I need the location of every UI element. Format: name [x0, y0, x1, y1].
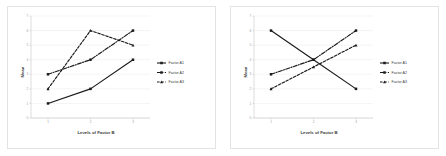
left-x-axis-title: Levels of Factor B [77, 130, 114, 135]
series-line-2 [48, 31, 133, 75]
data-point-marker [270, 29, 273, 32]
data-point-marker [270, 73, 273, 76]
left-series-group [47, 29, 135, 105]
y-tick-label: 5 [26, 43, 28, 47]
left-y-axis-title: Mean [20, 66, 25, 77]
left-xtick-labels: 123 [47, 120, 134, 124]
figure-root: 01234567 123 Factor A1Factor A2Factor A3… [0, 0, 446, 156]
data-point-marker [89, 88, 92, 91]
right-chart: 01234567 123 Factor A1Factor A2Factor A3… [223, 0, 446, 156]
x-tick-label: 1 [270, 120, 272, 124]
data-point-marker [89, 58, 92, 61]
y-tick-label: 1 [26, 102, 28, 106]
x-tick-label: 3 [132, 120, 134, 124]
y-tick-label: 2 [249, 87, 251, 91]
right-ytick-labels: 01234567 [249, 14, 251, 120]
right-chart-svg: 01234567 123 Factor A1Factor A2Factor A3… [223, 0, 446, 156]
series-line-1 [48, 60, 133, 104]
left-chart-svg: 01234567 123 Factor A1Factor A2Factor A3… [0, 0, 223, 156]
y-tick-label: 6 [249, 29, 251, 33]
y-tick-label: 2 [26, 87, 28, 91]
y-tick-label: 3 [26, 72, 28, 76]
legend-label-2: Factor A2 [392, 71, 407, 75]
data-point-marker [383, 71, 386, 74]
data-point-marker [312, 58, 315, 61]
right-x-axis-title: Levels of Factor B [300, 130, 337, 135]
y-tick-label: 3 [249, 72, 251, 76]
x-tick-label: 2 [313, 120, 315, 124]
left-panel: 01234567 123 Factor A1Factor A2Factor A3… [0, 0, 223, 156]
data-point-marker [132, 29, 135, 32]
data-point-marker [47, 102, 50, 105]
y-tick-label: 1 [249, 102, 251, 106]
y-tick-label: 5 [249, 43, 251, 47]
y-tick-label: 4 [249, 58, 251, 62]
y-tick-label: 0 [26, 116, 28, 120]
left-chart: 01234567 123 Factor A1Factor A2Factor A3… [0, 0, 223, 156]
legend-label-3: Factor A3 [169, 80, 184, 84]
data-point-marker [383, 62, 386, 65]
left-ytick-labels: 01234567 [26, 14, 28, 120]
x-tick-label: 2 [90, 120, 92, 124]
x-tick-label: 3 [355, 120, 357, 124]
right-xtick-labels: 123 [270, 120, 357, 124]
y-tick-label: 6 [26, 29, 28, 33]
left-legend: Factor A1Factor A2Factor A3 [157, 61, 184, 84]
data-point-marker [355, 88, 358, 91]
data-point-marker [132, 58, 135, 61]
legend-label-3: Factor A3 [392, 80, 407, 84]
y-tick-label: 7 [26, 14, 28, 18]
x-tick-label: 1 [47, 120, 49, 124]
data-point-marker [160, 62, 163, 65]
y-tick-label: 7 [249, 14, 251, 18]
legend-label-1: Factor A1 [169, 61, 184, 65]
data-point-marker [160, 71, 163, 74]
legend-label-1: Factor A1 [392, 61, 407, 65]
y-tick-label: 0 [249, 116, 251, 120]
right-y-axis-title: Mean [243, 66, 248, 77]
data-point-marker [355, 29, 358, 32]
legend-label-2: Factor A2 [169, 71, 184, 75]
right-panel: 01234567 123 Factor A1Factor A2Factor A3… [223, 0, 446, 156]
right-legend: Factor A1Factor A2Factor A3 [380, 61, 407, 84]
y-tick-label: 4 [26, 58, 28, 62]
data-point-marker [47, 73, 50, 76]
